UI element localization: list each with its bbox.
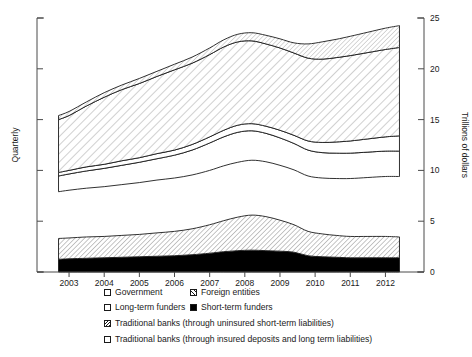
legend-item-short-term-funders[interactable]: Short-term funders [190,303,273,312]
x-axis-ticks: 2003200420052006200720082009201020112012 [60,272,396,288]
right-axis-tick-label: 5 [430,216,435,226]
legend-row-3: Traditional banks (through uninsured sho… [104,319,334,328]
x-axis-tick-label: 2003 [60,278,79,288]
right-axis-tick-label: 15 [430,115,440,125]
x-axis-tick-label: 2011 [341,278,360,288]
legend-label-short-term-funders: Short-term funders [201,303,273,312]
legend-item-long-term-funders[interactable]: Long-term funders [104,303,190,312]
left-axis: Quarterly [10,18,44,272]
left-axis-title: Quarterly [10,127,20,163]
right-axis-tick-label: 10 [430,165,440,175]
right-axis-title: Trillions of dollars [460,112,470,178]
x-axis-tick-label: 2010 [306,278,325,288]
legend-swatch-foreign-entities-icon [190,289,197,296]
legend-row-1: Government Foreign entities [104,288,260,297]
legend-label-long-term-funders: Long-term funders [115,303,185,312]
right-axis-ticks: 0510152025 [418,13,440,277]
left-axis-ticks [37,18,43,272]
x-axis-tick-label: 2006 [165,278,184,288]
legend-row-2: Long-term funders Short-term funders [104,303,273,312]
x-axis: 2003200420052006200720082009201020112012 [37,272,424,288]
legend-row-4: Traditional banks (through insured depos… [104,335,372,344]
right-axis-tick-label: 20 [430,64,440,74]
legend-item-traditional-banks-insured[interactable]: Traditional banks (through insured depos… [104,335,372,344]
legend-label-government: Government [115,288,162,297]
right-axis-tick-label: 0 [430,267,435,277]
legend-swatch-short-term-funders-icon [190,304,197,311]
x-axis-tick-label: 2004 [95,278,114,288]
legend-label-traditional-banks-insured: Traditional banks (through insured depos… [115,335,372,344]
right-axis: 0510152025 Trillions of dollars [417,13,470,277]
legend-label-foreign-entities: Foreign entities [201,288,260,297]
chart-figure: Quarterly 0510152025 Trillions of dollar… [0,0,472,357]
legend-item-government[interactable]: Government [104,288,190,297]
right-axis-tick-label: 25 [430,13,440,23]
legend-swatch-long-term-funders-icon [104,304,111,311]
legend-swatch-traditional-banks-uninsured-icon [104,320,111,327]
legend-item-foreign-entities[interactable]: Foreign entities [190,288,260,297]
legend-label-traditional-banks-uninsured: Traditional banks (through uninsured sho… [115,319,334,328]
legend-item-traditional-banks-uninsured[interactable]: Traditional banks (through uninsured sho… [104,319,334,328]
legend-swatch-government-icon [104,289,111,296]
x-axis-tick-label: 2012 [376,278,395,288]
legend-swatch-traditional-banks-insured-icon [104,336,111,343]
plot-bands [59,26,400,272]
x-axis-tick-label: 2009 [271,278,290,288]
